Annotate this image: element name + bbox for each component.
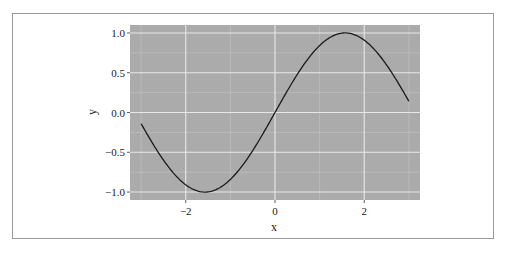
x-tick-label: 2	[361, 205, 367, 217]
y-axis: 1.00.50.0−0.5−1.0	[105, 27, 130, 198]
x-axis-title: x	[271, 220, 277, 234]
x-tick-label: −2	[180, 205, 192, 217]
x-tick-label: 0	[272, 205, 278, 217]
x-axis: −202	[180, 200, 367, 217]
y-tick-label: 0.5	[111, 67, 125, 79]
y-tick-label: −0.5	[105, 146, 125, 158]
sine-line-chart: 1.00.50.0−0.5−1.0 −202 y x	[0, 0, 509, 253]
plot-panel	[130, 25, 420, 200]
y-tick-label: −1.0	[105, 186, 125, 198]
y-tick-label: 1.0	[111, 27, 125, 39]
y-tick-label: 0.0	[111, 107, 125, 119]
y-axis-title: y	[85, 109, 99, 115]
